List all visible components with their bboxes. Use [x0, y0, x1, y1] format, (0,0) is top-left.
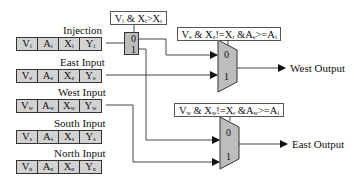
east-mux-pin-1: 1 — [226, 152, 231, 162]
west-input-register: Vw Aw Xw Yw — [16, 99, 102, 113]
register-cell: Ye — [80, 70, 101, 82]
north-input-register: Vn An Xn Yn — [16, 160, 102, 174]
register-cell: Ve — [17, 70, 38, 82]
west-output-label: West Output — [290, 63, 345, 74]
register-cell: Xe — [59, 70, 80, 82]
injection-register: Vi Ai Xi Yi — [16, 37, 102, 51]
east-mux-pin-0: 0 — [226, 128, 231, 138]
register-cell: As — [38, 131, 59, 143]
register-cell: An — [38, 161, 59, 173]
east-output-label: East Output — [292, 139, 344, 150]
register-cell: Xn — [59, 161, 80, 173]
register-cell: Xs — [59, 131, 80, 143]
register-cell: Vw — [17, 100, 38, 112]
router-datapath-diagram: Injection Vi Ai Xi Yi East Input Ve Ae X… — [0, 0, 354, 180]
demux-pin-1: 1 — [131, 45, 136, 55]
register-cell: Ys — [80, 131, 101, 143]
west-mux-shape — [218, 40, 237, 92]
injection-label: Injection — [63, 25, 102, 36]
west-mux-condition: Ve & Xe!=Xr &Ae>=Ai — [177, 27, 281, 41]
register-cell: Xi — [59, 38, 80, 50]
register-cell: Vs — [17, 131, 38, 143]
register-cell: Yn — [80, 161, 101, 173]
register-cell: Ai — [38, 38, 59, 50]
register-cell: Ae — [38, 70, 59, 82]
register-cell: Yi — [80, 38, 101, 50]
west-mux-pin-1: 1 — [224, 72, 229, 82]
register-cell: Yw — [80, 100, 101, 112]
east-input-label: East Input — [60, 57, 105, 68]
east-input-register: Ve Ae Xe Ye — [16, 69, 102, 83]
register-cell: Aw — [38, 100, 59, 112]
south-input-register: Vs As Xs Ys — [16, 130, 102, 144]
register-cell: Vi — [17, 38, 38, 50]
west-mux-pin-0: 0 — [224, 50, 229, 60]
register-cell: Xw — [59, 100, 80, 112]
demux-condition: Vi & Xi>Xr — [110, 11, 167, 25]
register-cell: Vn — [17, 161, 38, 173]
east-mux-condition: Vw & Xw!=Xr &Aw>=Ai — [174, 103, 284, 117]
demux-pin-0: 0 — [131, 34, 136, 44]
south-input-label: South Input — [54, 118, 106, 129]
north-input-label: North Input — [54, 148, 106, 159]
west-input-label: West Input — [58, 87, 106, 98]
